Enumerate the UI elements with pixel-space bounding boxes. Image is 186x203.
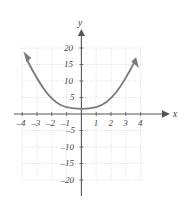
- y-tick-label-neg20: –20: [61, 176, 75, 185]
- x-tick-label-2: 2: [109, 119, 114, 128]
- x-tick-label-1: 1: [94, 119, 99, 128]
- y-axis: [78, 29, 85, 196]
- coordinate-plane: [0, 0, 186, 203]
- x-tick-label-4: 4: [138, 119, 143, 128]
- x-axis: [14, 110, 170, 117]
- y-tick-label-5: 5: [70, 93, 75, 102]
- y-axis-label: y: [78, 19, 82, 29]
- graph-figure: 20 15 10 5 –5 –10 –15 –20 –4 –3 –2 –1 1 …: [0, 0, 186, 203]
- y-tick-label-neg15: –15: [61, 159, 75, 168]
- x-tick-label-neg3: –3: [31, 119, 40, 128]
- y-tick-label-neg10: –10: [61, 143, 75, 152]
- x-tick-label-neg1: –1: [61, 119, 70, 128]
- curve-arrow-upper-left: [24, 52, 32, 63]
- y-tick-label-10: 10: [64, 77, 73, 86]
- y-tick-label-15: 15: [64, 60, 73, 69]
- x-tick-label-3: 3: [123, 119, 128, 128]
- y-tick-label-20: 20: [64, 44, 73, 53]
- x-tick-label-neg2: –2: [46, 119, 55, 128]
- x-axis-label: x: [173, 110, 177, 120]
- x-tick-label-neg4: –4: [17, 119, 26, 128]
